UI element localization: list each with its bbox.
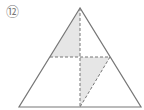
triangle-diagram xyxy=(0,0,144,110)
lower-shaded-region xyxy=(80,57,110,107)
